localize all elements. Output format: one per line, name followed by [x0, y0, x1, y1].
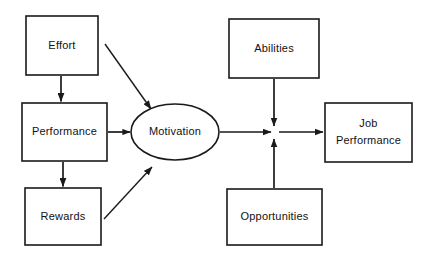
node-opportunities-label: Opportunities	[240, 210, 308, 222]
edge-rewards-to-motivation	[104, 167, 152, 219]
diagram-canvas: Effort Performance Rewards Motivation Ab…	[0, 0, 431, 257]
node-job-performance-label-line2: Performance	[336, 134, 401, 146]
node-opportunities[interactable]: Opportunities	[227, 189, 322, 245]
arrow-diagonal-effort-motivation	[105, 44, 151, 109]
node-job-performance[interactable]: Job Performance	[325, 103, 412, 162]
node-effort[interactable]: Effort	[26, 16, 98, 75]
node-performance[interactable]: Performance	[22, 103, 107, 161]
node-effort-label: Effort	[48, 39, 75, 51]
node-motivation-label: Motivation	[149, 125, 201, 137]
arrow-diagonal-rewards-motivation	[104, 167, 152, 219]
node-abilities-label: Abilities	[254, 42, 294, 54]
node-motivation[interactable]: Motivation	[131, 104, 219, 160]
edge-effort-to-motivation	[105, 44, 151, 109]
node-abilities[interactable]: Abilities	[229, 19, 319, 78]
node-job-performance-box[interactable]	[325, 103, 412, 162]
node-rewards[interactable]: Rewards	[25, 188, 101, 245]
node-job-performance-label-line1: Job	[359, 117, 377, 129]
flowchart-svg: Effort Performance Rewards Motivation Ab…	[0, 0, 431, 257]
node-rewards-label: Rewards	[41, 210, 86, 222]
node-performance-label: Performance	[32, 125, 97, 137]
